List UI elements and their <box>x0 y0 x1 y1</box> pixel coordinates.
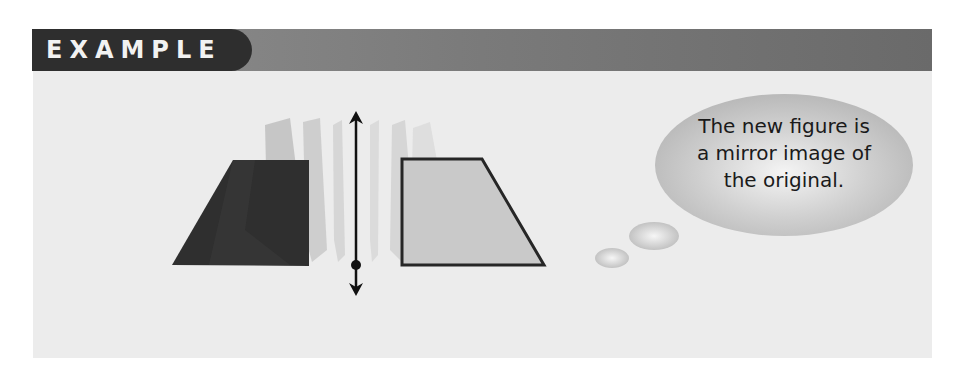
reflected-trapezoid <box>402 159 544 265</box>
thought-bubble-text: The new figure is a mirror image of the … <box>660 113 908 194</box>
bubble-line: the original. <box>660 167 908 194</box>
line-of-reflection <box>349 111 363 296</box>
reflection-point <box>351 260 361 270</box>
bubble-line: The new figure is <box>660 113 908 140</box>
bubble-line: a mirror image of <box>660 140 908 167</box>
